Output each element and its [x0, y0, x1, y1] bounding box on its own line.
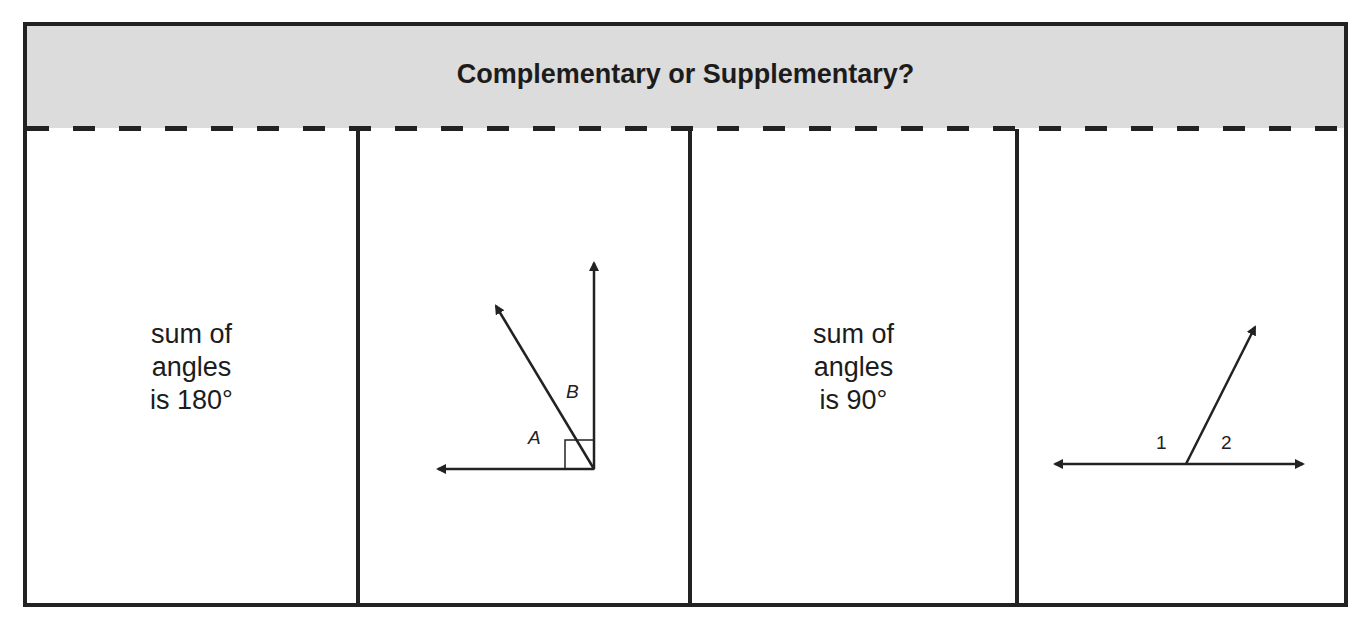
- definition-text: sum of angles is 180°: [150, 318, 233, 417]
- angle-label-1: 1: [1156, 432, 1167, 453]
- cell-supplementary-figure: 1 2: [1019, 131, 1348, 603]
- text-line: angles: [150, 351, 233, 384]
- angle-label-b: B: [566, 381, 579, 402]
- text-line: sum of: [150, 318, 233, 351]
- text-line: is 90°: [813, 384, 894, 417]
- cell-sum-90: sum of angles is 90°: [692, 131, 1015, 603]
- cell-sum-180: sum of angles is 180°: [27, 131, 356, 603]
- angle-label-2: 2: [1221, 432, 1232, 453]
- text-line: angles: [813, 351, 894, 384]
- supplementary-angles-figure: 1 2: [1019, 131, 1348, 607]
- page-title: Complementary or Supplementary?: [457, 59, 915, 90]
- header-band: Complementary or Supplementary?: [27, 26, 1344, 128]
- cell-complementary-figure: A B: [360, 131, 688, 603]
- text-line: sum of: [813, 318, 894, 351]
- definition-text: sum of angles is 90°: [813, 318, 894, 417]
- foldable-organizer: Complementary or Supplementary? sum of a…: [23, 22, 1348, 607]
- text-line: is 180°: [150, 384, 233, 417]
- angle-label-a: A: [527, 427, 541, 448]
- complementary-angles-figure: A B: [360, 131, 688, 607]
